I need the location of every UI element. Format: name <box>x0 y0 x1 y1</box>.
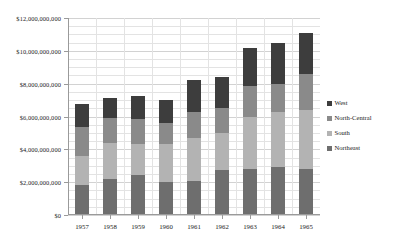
y-axis-tick-label: $10,000,000,000 <box>16 47 61 54</box>
y-axis-tick-label: $6,000,000,000 <box>20 113 61 120</box>
legend-swatch-icon <box>327 131 332 136</box>
x-axis-tick-label: 1957 <box>75 223 89 230</box>
y-axis-tick-label: $4,000,000,000 <box>20 146 61 153</box>
x-axis-tick <box>82 215 83 219</box>
y-axis-tick-label: $0 <box>54 212 61 219</box>
x-axis-tick-label: 1959 <box>131 223 145 230</box>
x-axis-tick <box>222 215 223 219</box>
y-axis-tick-label: $12,000,000,000 <box>16 15 61 22</box>
legend-label: South <box>335 130 350 137</box>
plot-area <box>68 18 320 215</box>
x-axis: 195719581959196019611962196319641965 <box>68 215 320 242</box>
legend-item-north-central[interactable]: North-Central <box>327 111 400 126</box>
y-axis-tick-label: $2,000,000,000 <box>20 179 61 186</box>
x-axis-tick <box>306 215 307 219</box>
legend-item-west[interactable]: West <box>327 96 400 111</box>
legend-swatch-icon <box>327 101 332 106</box>
x-axis-tick <box>250 215 251 219</box>
x-axis-tick-label: 1963 <box>243 223 257 230</box>
legend-label: West <box>335 100 348 107</box>
x-axis-tick-label: 1958 <box>103 223 117 230</box>
x-axis-tick-label: 1964 <box>271 223 285 230</box>
legend-swatch-icon <box>327 146 332 151</box>
legend-label: Northeast <box>335 145 361 152</box>
x-axis-tick <box>166 215 167 219</box>
x-axis-tick <box>110 215 111 219</box>
legend-item-south[interactable]: South <box>327 126 400 141</box>
y-axis-tick-label: $8,000,000,000 <box>20 80 61 87</box>
y-axis: $0$2,000,000,000$4,000,000,000$6,000,000… <box>0 0 68 242</box>
x-axis-tick-label: 1961 <box>187 223 201 230</box>
x-axis-tick <box>138 215 139 219</box>
legend-swatch-icon <box>327 116 332 121</box>
x-axis-tick <box>278 215 279 219</box>
x-axis-tick <box>194 215 195 219</box>
x-axis-tick-label: 1965 <box>299 223 313 230</box>
legend-item-northeast[interactable]: Northeast <box>327 141 400 156</box>
stacked-bar-chart: $0$2,000,000,000$4,000,000,000$6,000,000… <box>0 0 400 242</box>
legend-label: North-Central <box>335 115 372 122</box>
chart-legend: WestNorth-CentralSouthNortheast <box>327 96 400 156</box>
axis-frame <box>68 18 320 215</box>
x-axis-tick-label: 1962 <box>215 223 229 230</box>
x-axis-tick-label: 1960 <box>159 223 173 230</box>
